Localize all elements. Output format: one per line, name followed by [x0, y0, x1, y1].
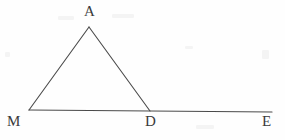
vertex-label-e: E — [262, 114, 271, 129]
vertex-label-d: D — [145, 114, 156, 129]
diagram-canvas — [0, 0, 285, 140]
segment-AD — [89, 27, 150, 111]
geometry-figure: A M D E — [0, 0, 285, 140]
segment-ME — [29, 110, 272, 112]
vertex-label-m: M — [7, 114, 20, 129]
vertex-label-a: A — [84, 4, 95, 19]
segment-MA — [29, 27, 89, 110]
